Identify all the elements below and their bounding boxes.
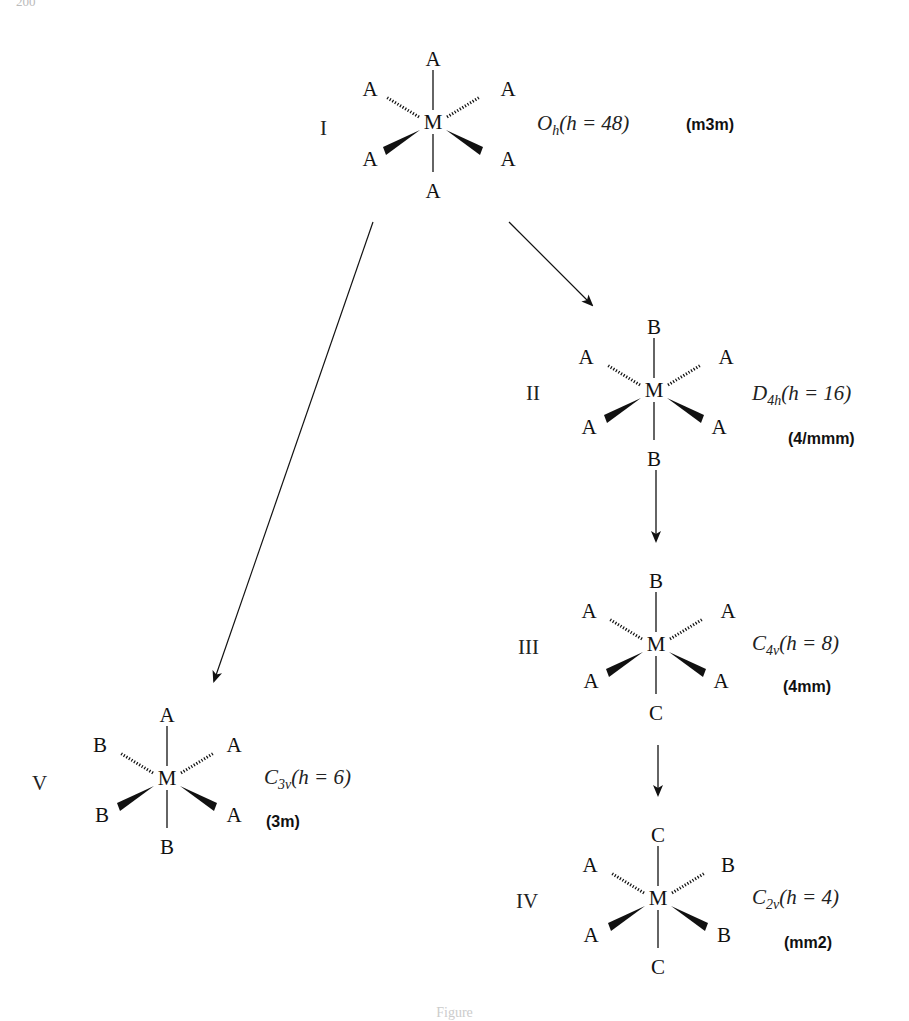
structure-roman-numeral: V: [32, 771, 47, 795]
ligand-bottom: B: [160, 835, 174, 859]
hashed-bond-upper-left: [386, 97, 419, 117]
hashed-bond-upper-right: [668, 365, 701, 385]
wedge-bond-lower-left: [604, 398, 641, 423]
ligand-top: A: [425, 47, 441, 71]
ligand-top: B: [649, 569, 663, 593]
wedge-bond-lower-left: [383, 130, 420, 155]
point-group-label: Oh(h = 48): [537, 111, 629, 138]
hermann-mauguin-symbol: (mm2): [784, 934, 832, 951]
hermann-mauguin-symbol: (3m): [266, 813, 300, 830]
ligand-upper-left: B: [93, 733, 107, 757]
structure-V: M A B B A B A: [93, 703, 242, 859]
wedge-bond-lower-left: [606, 652, 643, 677]
point-group-label: C3v(h = 6): [264, 765, 351, 792]
structure-roman-numeral: III: [518, 635, 539, 659]
ligand-lower-left: B: [95, 803, 109, 827]
ligand-upper-right: A: [720, 599, 736, 623]
hashed-bond-upper-right: [447, 97, 480, 117]
arrow-I-to-V: [214, 222, 373, 681]
hashed-bond-upper-right: [670, 619, 703, 639]
metal-center: M: [645, 378, 664, 402]
metal-center: M: [158, 766, 177, 790]
wedge-bond-lower-right: [180, 786, 217, 811]
hermann-mauguin-symbol: (4/mmm): [788, 430, 855, 447]
ligand-upper-right: A: [500, 77, 516, 101]
hashed-bond-upper-left: [611, 873, 644, 893]
ligand-lower-left: A: [581, 415, 597, 439]
structure-roman-numeral: I: [320, 116, 327, 140]
ligand-upper-left: A: [581, 599, 597, 623]
hashed-bond-upper-right: [672, 873, 705, 893]
hashed-bond-upper-left: [120, 753, 153, 773]
ligand-bottom: C: [651, 955, 665, 979]
wedge-bond-lower-right: [667, 398, 704, 423]
structure-III: M B C A A A A: [581, 569, 736, 725]
ligand-bottom: A: [425, 179, 441, 203]
figure-caption: Figure: [0, 1005, 909, 1021]
point-group-label: C4v(h = 8): [752, 631, 839, 658]
ligand-bottom: C: [649, 701, 663, 725]
point-group-label: C2v(h = 4): [752, 885, 839, 912]
ligand-lower-left: A: [362, 147, 378, 171]
arrow-I-to-II: [509, 222, 592, 305]
ligand-upper-left: A: [362, 77, 378, 101]
ligand-upper-right: B: [721, 853, 735, 877]
wedge-bond-lower-right: [669, 652, 706, 677]
structure-roman-numeral: IV: [516, 889, 538, 913]
structure-I: M A A A A A A: [362, 47, 516, 203]
point-group-label: D4h(h = 16): [751, 381, 851, 408]
ligand-lower-right: A: [711, 415, 727, 439]
ligand-lower-right: A: [713, 669, 729, 693]
ligand-upper-left: A: [578, 345, 594, 369]
ligand-top: A: [159, 703, 175, 727]
hashed-bond-upper-left: [609, 619, 642, 639]
ligand-upper-left: A: [582, 853, 598, 877]
structure-IV: M C C A B A B: [582, 823, 735, 979]
wedge-bond-lower-right: [671, 906, 708, 931]
metal-center: M: [649, 886, 668, 910]
ligand-upper-right: A: [226, 733, 242, 757]
hashed-bond-upper-right: [181, 753, 214, 773]
ligand-upper-right: A: [718, 345, 734, 369]
ligand-top: C: [651, 823, 665, 847]
ligand-lower-right: A: [500, 147, 516, 171]
metal-center: M: [424, 110, 443, 134]
ligand-top: B: [647, 315, 661, 339]
metal-center: M: [647, 632, 666, 656]
wedge-bond-lower-left: [117, 786, 154, 811]
hashed-bond-upper-left: [607, 365, 640, 385]
wedge-bond-lower-left: [608, 906, 645, 931]
structure-II: M B B A A A A: [578, 315, 734, 471]
hermann-mauguin-symbol: (4mm): [783, 678, 831, 695]
hermann-mauguin-symbol: (m3m): [686, 116, 734, 133]
ligand-lower-left: A: [583, 923, 599, 947]
ligand-bottom: B: [647, 447, 661, 471]
structure-roman-numeral: II: [526, 381, 540, 405]
ligand-lower-right: A: [226, 803, 242, 827]
ligand-lower-right: B: [717, 923, 731, 947]
wedge-bond-lower-right: [446, 130, 483, 155]
ligand-lower-left: A: [583, 669, 599, 693]
